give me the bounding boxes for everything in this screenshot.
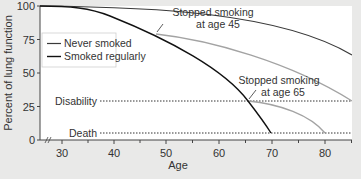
y-tick-50: 50 (23, 67, 35, 79)
y-tick-0: 0 (29, 134, 35, 146)
x-tick-30: 30 (56, 147, 68, 159)
y-tick-labels: 100 75 50 25 0 (17, 0, 35, 146)
x-tick-60: 60 (213, 147, 225, 159)
x-tick-50: 50 (160, 147, 172, 159)
y-tick-100: 100 (17, 0, 35, 12)
death-label: Death (69, 127, 97, 139)
legend-smoked-label: Smoked regularly (64, 50, 146, 62)
y-tick-75: 75 (23, 34, 35, 46)
x-tick-70: 70 (266, 147, 278, 159)
annotation-45-line2: at age 45 (196, 18, 240, 30)
x-tick-80: 80 (319, 147, 331, 159)
y-tick-25: 25 (23, 101, 35, 113)
legend-never-label: Never smoked (64, 37, 132, 49)
lung-function-chart: 100 75 50 25 0 30 40 50 60 70 80 Age Per… (0, 0, 361, 179)
x-ticks (62, 140, 352, 144)
disability-label: Disability (55, 95, 98, 107)
y-axis-label: Percent of lung function (2, 15, 14, 131)
x-axis-label: Age (168, 159, 188, 171)
right-margin (352, 0, 361, 179)
x-tick-40: 40 (108, 147, 120, 159)
x-tick-labels: 30 40 50 60 70 80 (56, 147, 331, 159)
annotation-45-line1: Stopped smoking (172, 6, 253, 18)
annotation-65-line1: Stopped smoking (238, 74, 319, 86)
annotation-65-line2: at age 65 (261, 86, 305, 98)
legend: Never smoked Smoked regularly (42, 33, 146, 67)
